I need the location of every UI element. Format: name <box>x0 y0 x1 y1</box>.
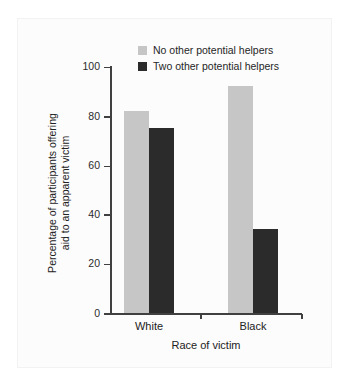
y-axis-line <box>110 66 112 314</box>
bar-chart: No other potential helpers Two other pot… <box>0 0 349 388</box>
bar-white-no-other-helpers <box>124 111 149 313</box>
x-axis-line <box>110 313 302 315</box>
x-tick-end <box>301 314 303 319</box>
bar-white-two-other-helpers <box>149 128 174 313</box>
y-tick-40 <box>104 214 110 216</box>
y-tick-label-100: 100 <box>62 60 100 72</box>
bar-black-two-other-helpers <box>253 229 278 313</box>
chart-legend: No other potential helpers Two other pot… <box>138 44 279 73</box>
legend-item-two-other-helpers: Two other potential helpers <box>138 60 279 73</box>
x-tick-separator <box>200 314 202 319</box>
y-tick-100 <box>104 67 110 69</box>
legend-item-no-other-helpers: No other potential helpers <box>138 44 279 57</box>
y-axis-title-line-1: Percentage of participants offering <box>46 88 59 298</box>
legend-swatch-dark <box>138 62 147 71</box>
figure: No other potential helpers Two other pot… <box>0 0 349 388</box>
y-tick-20 <box>104 264 110 266</box>
x-axis-title: Race of victim <box>110 339 302 351</box>
x-tick-label-black: Black <box>240 320 267 332</box>
y-tick-60 <box>104 166 110 168</box>
y-axis-title: Percentage of participants offering aid … <box>46 88 72 298</box>
y-tick-label-0: 0 <box>62 307 100 319</box>
bar-black-no-other-helpers <box>228 86 253 313</box>
legend-swatch-light <box>138 46 147 55</box>
y-tick-80 <box>104 116 110 118</box>
legend-label-series-1: No other potential helpers <box>153 45 273 56</box>
y-axis-title-line-2: aid to an apparent victim <box>59 88 72 298</box>
legend-label-series-2: Two other potential helpers <box>153 61 279 72</box>
x-tick-label-white: White <box>135 320 163 332</box>
